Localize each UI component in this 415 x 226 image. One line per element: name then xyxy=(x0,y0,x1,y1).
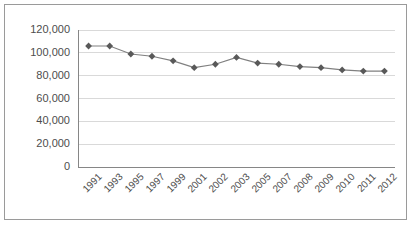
y-axis-tick-label: 40,000 xyxy=(5,114,70,126)
y-axis-tick-label: 20,000 xyxy=(5,137,70,149)
data-point-marker xyxy=(233,54,240,61)
data-point-marker xyxy=(381,68,388,75)
y-axis-tick-label: 60,000 xyxy=(5,92,70,104)
data-point-marker xyxy=(254,60,261,67)
y-axis-tick-label: 0 xyxy=(5,160,70,172)
data-point-marker xyxy=(360,68,367,75)
data-point-marker xyxy=(212,61,219,68)
data-point-markers xyxy=(85,43,388,75)
data-point-marker xyxy=(149,53,156,60)
y-axis-tick-label: 100,000 xyxy=(5,46,70,58)
chart-container: 020,00040,00060,00080,000100,000120,000 … xyxy=(4,4,407,220)
data-point-marker xyxy=(297,63,304,70)
data-point-marker xyxy=(106,43,113,50)
y-axis-tick-label: 120,000 xyxy=(5,23,70,35)
data-point-marker xyxy=(339,67,346,74)
data-point-marker xyxy=(191,64,198,71)
data-point-marker xyxy=(170,57,177,64)
data-point-marker xyxy=(85,43,92,50)
gridlines xyxy=(78,30,395,167)
data-point-marker xyxy=(127,51,134,58)
y-axis-tick-label: 80,000 xyxy=(5,69,70,81)
data-point-marker xyxy=(275,61,282,68)
data-point-marker xyxy=(318,64,325,71)
